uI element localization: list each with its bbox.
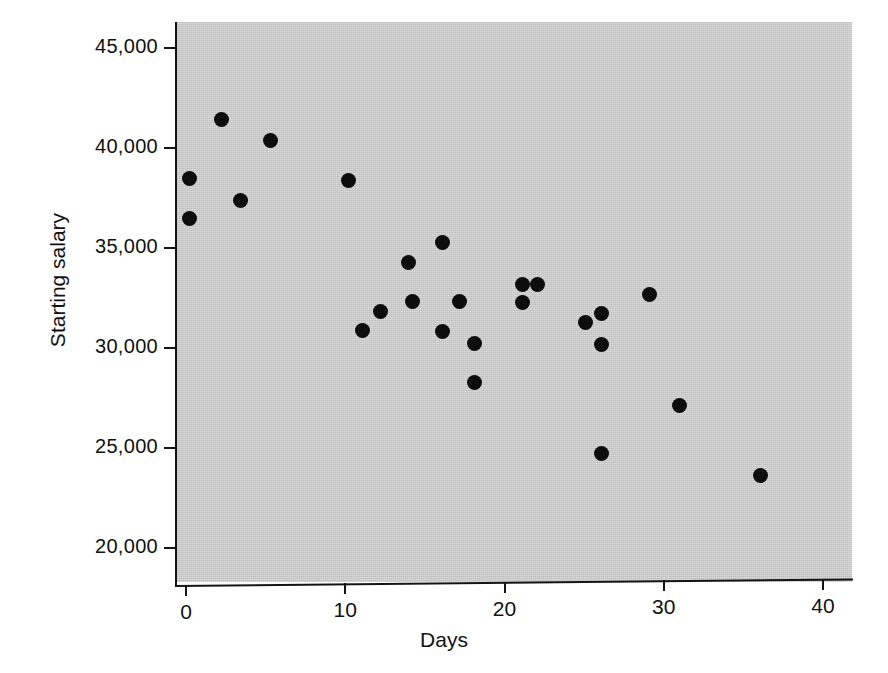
y-axis-label: Starting salary xyxy=(46,170,70,390)
data-point xyxy=(467,336,482,351)
plot-area xyxy=(176,22,852,582)
x-axis-tick-label: 30 xyxy=(624,595,704,619)
data-point xyxy=(401,255,416,270)
y-axis-tick-mark xyxy=(164,247,175,249)
x-axis-tick-label: 10 xyxy=(305,598,385,622)
data-point xyxy=(672,398,687,413)
data-point xyxy=(530,277,545,292)
y-axis-tick-label: 45,000 xyxy=(18,35,158,58)
data-point xyxy=(435,324,450,339)
x-axis-tick-label: 0 xyxy=(146,600,226,624)
data-point xyxy=(405,294,420,309)
y-axis-tick-mark xyxy=(164,47,175,49)
y-axis-tick-mark xyxy=(164,547,175,549)
data-point xyxy=(435,235,450,250)
y-axis-line xyxy=(175,22,177,587)
y-axis-tick-label: 40,000 xyxy=(18,135,158,158)
y-axis-tick-mark xyxy=(164,447,175,449)
data-point xyxy=(642,287,657,302)
y-axis-tick-label: 20,000 xyxy=(18,535,158,558)
y-axis-tick-mark xyxy=(164,347,175,349)
x-axis-tick-mark xyxy=(344,583,346,594)
y-axis-tick-label: 30,000 xyxy=(18,335,158,358)
x-axis-tick-mark xyxy=(822,579,824,590)
data-point xyxy=(594,446,609,461)
y-axis-tick-label: 35,000 xyxy=(18,235,158,258)
data-point xyxy=(373,304,388,319)
data-point xyxy=(753,468,768,483)
x-axis-tick-mark xyxy=(504,582,506,593)
x-axis-tick-mark xyxy=(663,580,665,591)
data-point xyxy=(355,323,370,338)
data-point xyxy=(182,211,197,226)
data-point xyxy=(182,171,197,186)
data-point xyxy=(515,295,530,310)
x-axis-tick-label: 20 xyxy=(465,597,545,621)
data-point xyxy=(578,315,593,330)
y-axis-tick-mark xyxy=(164,147,175,149)
data-point xyxy=(452,294,467,309)
data-point xyxy=(341,173,356,188)
data-point xyxy=(594,306,609,321)
x-axis-tick-mark xyxy=(185,585,187,596)
data-point xyxy=(594,337,609,352)
x-axis-label: Days xyxy=(0,628,888,652)
data-point xyxy=(214,112,229,127)
x-axis-tick-label: 40 xyxy=(783,594,863,618)
y-axis-tick-label: 25,000 xyxy=(18,435,158,458)
data-point xyxy=(263,133,278,148)
data-point xyxy=(467,375,482,390)
scatter-plot-figure: 20,00025,00030,00035,00040,00045,000 010… xyxy=(0,0,888,673)
data-point xyxy=(233,193,248,208)
data-point xyxy=(515,277,530,292)
